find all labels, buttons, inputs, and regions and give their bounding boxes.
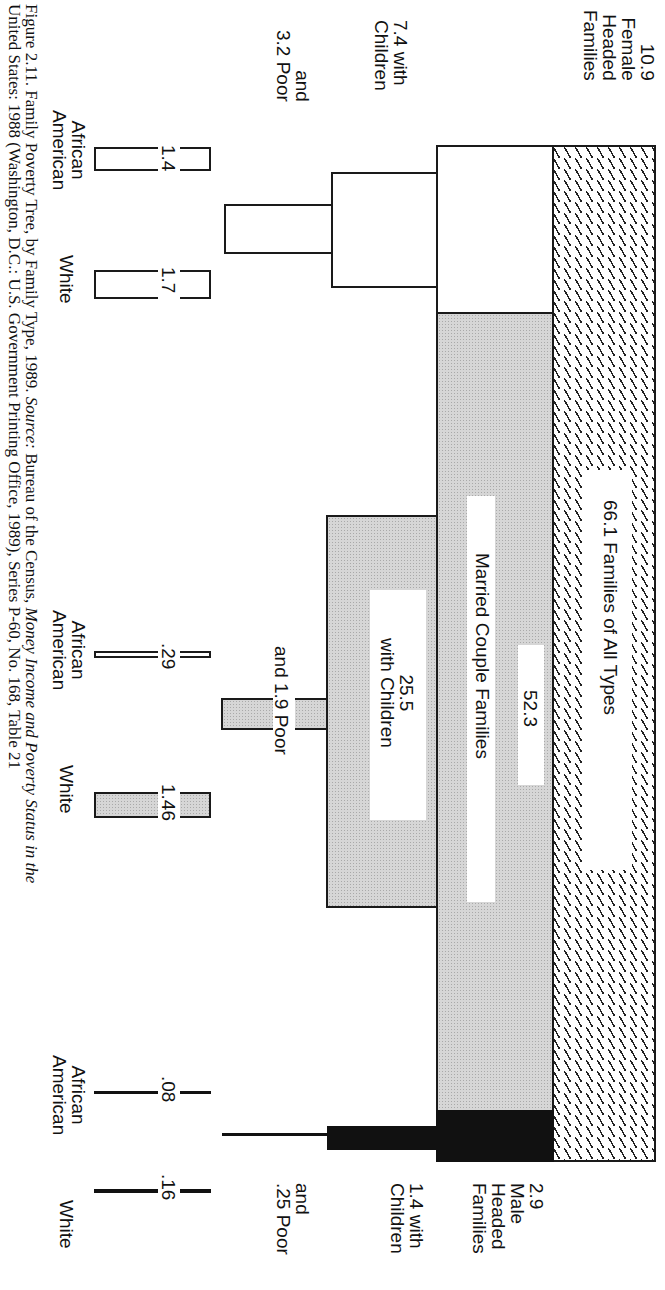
caption-line-1: Figure 2.11. Family Poverty Tree, by Fam… [23, 4, 40, 883]
root-label: 66.1 Families of All Types [601, 500, 620, 715]
race-label-male-aa: African American [50, 1055, 88, 1135]
male-with-children-bar [327, 1126, 438, 1150]
female-aa-value: 1.4 [159, 145, 178, 171]
married-total-label: 52.3 [521, 690, 540, 727]
married-couple-label: Married Couple Families [473, 553, 492, 759]
female-headed-label: 10.9 Female Headed Families [581, 10, 657, 81]
family-poverty-tree-figure: 66.1 Families of All Types Married Coupl… [0, 0, 665, 1290]
male-with-children-label: 1.4 with Children [388, 1183, 426, 1254]
male-total: 2.9 [527, 1183, 546, 1254]
male-white-bar [94, 1189, 211, 1193]
married-children-value: 25.5 [397, 638, 416, 748]
married-african-american-bar [94, 651, 211, 658]
race-label-female-white: White [57, 255, 76, 304]
female-with-children-bar [331, 172, 438, 288]
race-label-married-aa: African American [50, 610, 88, 690]
male-headed-bar [436, 1110, 554, 1162]
married-w-value: 1.46 [159, 784, 178, 821]
married-aa-value: .29 [159, 643, 178, 669]
female-headed-bar [436, 145, 554, 314]
female-african-american-bar [94, 147, 211, 171]
figure-caption: Figure 2.11. Family Poverty Tree, by Fam… [6, 4, 40, 883]
female-total: 10.9 [638, 10, 657, 81]
married-children-text: with Children [378, 638, 397, 748]
married-poor-label: and 1.9 Poor [272, 646, 291, 755]
married-white-bar [94, 792, 211, 818]
male-aa-value: .08 [159, 1076, 178, 1102]
married-children-label: 25.5 with Children [378, 638, 416, 748]
female-w-value: 1.7 [159, 267, 178, 293]
male-african-american-bar [94, 1091, 211, 1094]
race-label-male-white: White [57, 1200, 76, 1249]
female-white-bar [94, 270, 211, 299]
female-poor-label: and 3.2 Poor [274, 30, 312, 102]
caption-line-2: United States: 1988 (Washington, D.C.: U… [6, 4, 23, 883]
race-label-female-aa: African American [50, 110, 88, 190]
race-label-married-white: White [57, 765, 76, 814]
male-w-value: .16 [159, 1174, 178, 1200]
male-poor-label: and .25 Poor [274, 1183, 312, 1255]
male-headed-label: 2.9 Male Headed Families [470, 1183, 546, 1254]
female-poor-bar [224, 204, 333, 254]
female-with-children-label: 7.4 with Children [372, 20, 410, 91]
male-poor-bar [222, 1133, 328, 1136]
